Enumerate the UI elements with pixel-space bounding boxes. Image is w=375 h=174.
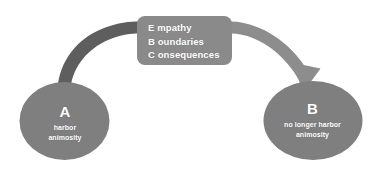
connector-incoming-band — [58, 22, 140, 93]
diagram-canvas: A harbor animosity B no longer harbor an… — [0, 0, 375, 174]
node-a-shape[interactable] — [20, 82, 110, 160]
node-b-shape[interactable] — [264, 81, 363, 160]
intervention-box-shape[interactable] — [137, 16, 232, 65]
diagram-graphics — [0, 0, 375, 174]
